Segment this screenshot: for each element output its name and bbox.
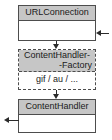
class-box-contenthandlerfactory[interactable]: ContentHandler- -Factory gif / au / ... (18, 49, 96, 90)
class-name-urlconnection: URLConnection (19, 6, 95, 21)
arrow-left-icon-right-incoming (96, 30, 101, 36)
class-name-contenthandlerfactory-line2: -Factory (22, 61, 92, 71)
class-box-contenthandler[interactable]: ContentHandler (18, 99, 96, 133)
class-name-contenthandlerfactory-line1: ContentHandler- (24, 50, 90, 60)
class-body-contenthandler (19, 115, 95, 129)
class-body-contenthandlerfactory-types: gif / au / ... (19, 72, 95, 87)
connector-left-outgoing (8, 120, 19, 121)
class-box-urlconnection[interactable]: URLConnection (18, 5, 96, 41)
class-body-urlconnection (19, 21, 95, 36)
arrow-left-icon-left-outgoing (4, 117, 9, 123)
uml-diagram-canvas: URLConnection ContentHandler- -Factory g… (0, 0, 112, 140)
class-name-contenthandler: ContentHandler (19, 100, 95, 115)
class-name-contenthandlerfactory: ContentHandler- -Factory (19, 50, 95, 72)
